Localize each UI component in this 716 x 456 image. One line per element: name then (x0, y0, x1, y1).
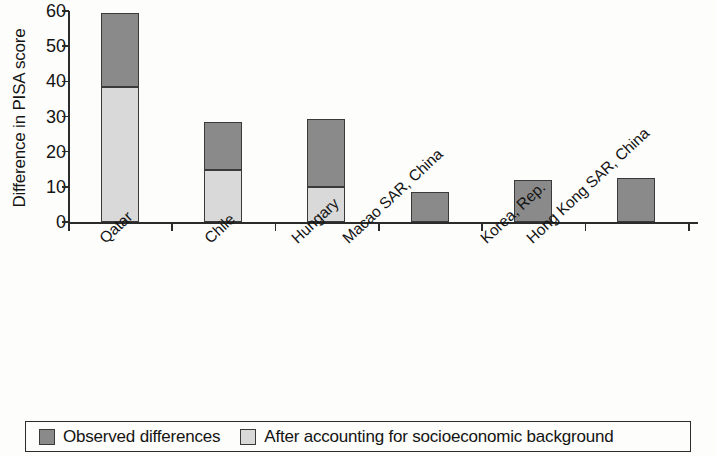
legend-label-observed-differences: Observed differences (63, 427, 220, 447)
bar-macao-sar-china[interactable] (411, 192, 449, 222)
bar-segment-observed-differences[interactable] (101, 13, 139, 87)
bar-segment-after-accounting[interactable] (101, 87, 139, 222)
bar-hong-kong-sar-china[interactable] (617, 178, 655, 222)
legend-item-after-accounting: After accounting for socioeconomic backg… (240, 427, 613, 447)
legend-label-after-accounting: After accounting for socioeconomic backg… (264, 427, 613, 447)
pisa-score-difference-chart: Difference in PISA score 0102030405060 Q… (0, 0, 716, 456)
legend-item-observed-differences: Observed differences (39, 427, 220, 447)
bar-segment-observed-differences[interactable] (307, 119, 345, 187)
bar-segment-observed-differences[interactable] (617, 178, 655, 222)
bar-segment-observed-differences[interactable] (411, 192, 449, 222)
bar-segment-observed-differences[interactable] (204, 122, 242, 169)
bar-series-group (0, 0, 716, 240)
plot-area: Difference in PISA score 0102030405060 Q… (0, 0, 716, 240)
legend-swatch-dark-icon (39, 429, 55, 445)
legend-swatch-light-icon (240, 429, 256, 445)
chart-legend: Observed differences After accounting fo… (25, 421, 691, 452)
bar-chile[interactable] (204, 122, 242, 222)
bar-qatar[interactable] (101, 13, 139, 222)
